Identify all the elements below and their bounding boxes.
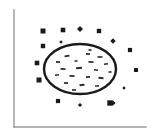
dash-mark [98,56,103,58]
dash-mark [64,82,68,84]
square-marker [35,61,40,66]
dash-mark [60,68,65,70]
square-marker [41,29,46,34]
dash-mark [76,67,82,69]
square-marker [37,78,42,83]
scatter-ellipse-figure [0,0,155,140]
dash-mark [109,71,112,73]
figure-background [0,0,155,140]
square-marker [56,99,60,103]
square-marker [61,28,66,33]
dash-mark [86,76,90,78]
square-marker [128,48,132,52]
dash-mark [95,85,99,87]
dash-mark [88,61,93,63]
dash-mark [89,49,92,51]
square-marker [41,44,45,48]
square-marker [97,29,101,33]
figure-container [0,0,155,140]
dash-mark [56,61,60,63]
dash-mark [72,89,76,91]
square-marker [134,68,138,72]
